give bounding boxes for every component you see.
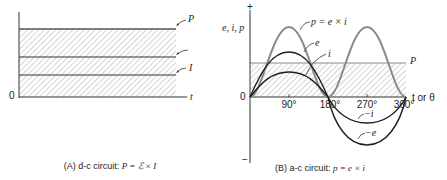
panel-b-ac-chart (250, 10, 406, 163)
dc-p-label: P (188, 14, 194, 24)
dc-caption-formula: P = ℰ × I (122, 161, 156, 171)
dc-caption-prefix: (A) d-c circuit: (64, 161, 120, 171)
ac-y-plus-label: + (247, 2, 253, 12)
ac-i-label: i (328, 49, 331, 59)
ac-caption-formula: p = e × i (333, 163, 365, 173)
dc-caption: (A) d-c circuit: P = ℰ × I (64, 162, 157, 171)
tick-label-180: 180° (320, 100, 341, 110)
dc-i-label: I (189, 63, 192, 73)
dc-x-axis-label: t (190, 92, 193, 102)
tick-label-90: 90° (281, 100, 296, 110)
panel-a-dc-chart (19, 12, 188, 98)
ac-x-axis-label: t or θ (412, 93, 435, 103)
neg-e-leader (358, 133, 365, 139)
ac-neg-e-label: −e (365, 128, 376, 138)
p-leader (300, 22, 310, 30)
dc-power-shaded-area (19, 29, 176, 97)
ac-average-power-label: P (410, 56, 416, 66)
ac-y-axis-label: e, i, p (222, 23, 244, 33)
ac-y-minus-label: − (242, 155, 248, 165)
ac-caption: (B) a-c circuit: p = e × i (275, 164, 365, 173)
ac-average-power-shaded-area (250, 63, 406, 97)
dc-origin-label: 0 (9, 91, 15, 101)
ac-caption-prefix: (B) a-c circuit: (275, 163, 331, 173)
ac-origin-label: 0 (240, 92, 246, 102)
ac-e-label: e (315, 38, 319, 48)
ac-neg-i-label: −i (364, 109, 374, 119)
ac-p-label: p = e × i (311, 17, 347, 27)
power-diagram-figure: 0 t P I (A) d-c circuit: P = ℰ × I + − e… (0, 0, 447, 180)
